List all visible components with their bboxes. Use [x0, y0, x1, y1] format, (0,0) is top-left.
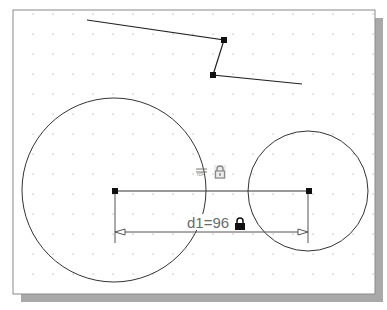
dimension-label[interactable]: d1=96 — [187, 214, 229, 231]
lock-icon — [214, 165, 226, 179]
svg-text:rcP: rcP — [197, 171, 205, 177]
sketch-canvas[interactable] — [13, 10, 375, 294]
center-point-right[interactable] — [306, 188, 312, 194]
sketch-canvas-area[interactable]: d1=96 rcP — [0, 0, 387, 310]
vertex-point[interactable] — [221, 37, 227, 43]
vertex-point[interactable] — [210, 72, 216, 78]
center-point-left[interactable] — [112, 188, 118, 194]
